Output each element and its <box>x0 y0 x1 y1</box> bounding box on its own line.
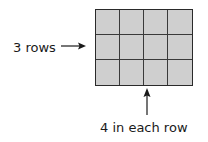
grid-cell <box>120 60 144 85</box>
grid-cell <box>168 10 192 35</box>
grid-cell <box>96 60 120 85</box>
grid-cell <box>120 35 144 60</box>
rows-label: 3 rows <box>13 41 56 54</box>
columns-label: 4 in each row <box>100 121 188 134</box>
array-grid <box>95 9 193 86</box>
grid-cell <box>144 35 168 60</box>
grid-cell <box>144 60 168 85</box>
grid-cell <box>144 10 168 35</box>
right-arrow-icon <box>61 42 87 50</box>
grid-cell <box>120 10 144 35</box>
up-arrow-icon <box>143 88 151 116</box>
grid-cell <box>168 35 192 60</box>
grid-cell <box>96 35 120 60</box>
grid-cell <box>168 60 192 85</box>
grid-cell <box>96 10 120 35</box>
